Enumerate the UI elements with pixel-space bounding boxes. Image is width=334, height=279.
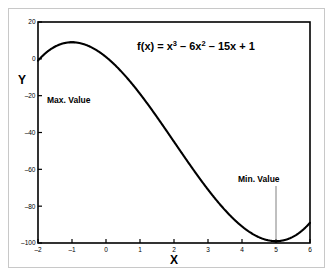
x-axis-tick-labels: –2–10123456 xyxy=(34,246,312,253)
equation-label: f(x) = x3 – 6x2 – 15x + 1 xyxy=(137,39,255,52)
y-tick-label: –40 xyxy=(25,129,36,136)
x-tick-label: 3 xyxy=(206,246,210,253)
chart-figure: –2–10123456 200–20–40–60–80–100 Max. Val… xyxy=(0,0,334,279)
x-tick-label: 6 xyxy=(308,246,312,253)
y-axis-tick-labels: 200–20–40–60–80–100 xyxy=(21,18,36,246)
x-tick-label: 2 xyxy=(172,246,176,253)
x-tick-label: 4 xyxy=(240,246,244,253)
x-tick-label: –2 xyxy=(34,246,42,253)
x-axis-title: X xyxy=(170,253,178,267)
function-curve xyxy=(38,42,310,241)
y-tick-label: –100 xyxy=(21,239,36,246)
annotation-layer: Max. ValueMin. Value xyxy=(47,42,280,241)
y-tick-label: 0 xyxy=(32,55,36,62)
annotation-label: Max. Value xyxy=(47,95,91,105)
x-tick-label: 5 xyxy=(274,246,278,253)
y-tick-label: –60 xyxy=(25,166,36,173)
plot-area: –2–10123456 200–20–40–60–80–100 Max. Val… xyxy=(0,0,334,279)
y-axis-title: Y xyxy=(18,73,26,87)
y-tick-label: 20 xyxy=(28,18,36,25)
y-tick-label: –80 xyxy=(25,203,36,210)
x-tick-label: –1 xyxy=(68,246,76,253)
annotation-label: Min. Value xyxy=(238,174,280,184)
x-tick-label: 0 xyxy=(104,246,108,253)
x-tick-label: 1 xyxy=(138,246,142,253)
axes-frame xyxy=(38,22,310,243)
y-tick-label: –20 xyxy=(25,92,36,99)
